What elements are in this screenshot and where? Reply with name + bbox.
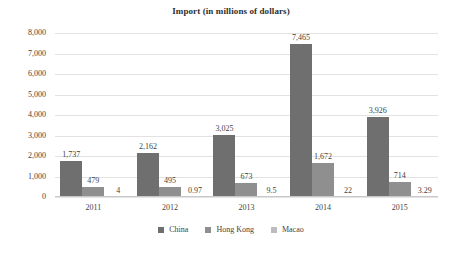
bar-value-label: 22	[331, 187, 365, 195]
bar-value-label: 4	[101, 187, 135, 195]
bar-value-label: 479	[75, 177, 111, 185]
bar-value-label: 2,162	[130, 143, 166, 151]
bar-value-label: 7,465	[283, 34, 319, 42]
y-tick-label: 5,000	[28, 91, 46, 99]
gridline	[55, 197, 438, 198]
bar-chart: Import (in millions of dollars) 01,0002,…	[0, 0, 462, 256]
bar-value-label: 673	[228, 173, 264, 181]
legend-item-hong-kong[interactable]: Hong Kong	[205, 226, 254, 234]
y-tick-label: 2,000	[28, 152, 46, 160]
bar-value-label: 1,672	[305, 153, 341, 161]
bar-group: 2,1624950.97	[132, 33, 209, 197]
x-tick-label: 2012	[132, 203, 209, 212]
legend-item-macao[interactable]: Macao	[271, 226, 304, 234]
legend-label: China	[169, 226, 188, 234]
y-tick-label: 0	[42, 193, 46, 201]
y-tick-label: 8,000	[28, 29, 46, 37]
x-tick-label: 2015	[361, 203, 438, 212]
legend-swatch-icon	[205, 227, 211, 233]
bar-group: 3,9267143.29	[361, 33, 438, 197]
chart-legend: ChinaHong KongMacao	[0, 226, 462, 234]
y-tick-label: 4,000	[28, 111, 46, 119]
x-tick-label: 2011	[55, 203, 132, 212]
bar-china-2012[interactable]	[137, 153, 159, 197]
bar-group: 7,4651,67222	[285, 33, 362, 197]
bar-value-label: 3,025	[207, 125, 243, 133]
x-axis-line	[55, 196, 438, 197]
bar-group: 1,7374794	[55, 33, 132, 197]
bar-china-2014[interactable]	[290, 44, 312, 197]
bar-value-label: 3.29	[408, 187, 442, 195]
legend-swatch-icon	[158, 227, 164, 233]
bar-china-2015[interactable]	[367, 117, 389, 197]
bar-value-label: 714	[382, 172, 418, 180]
bar-value-label: 0.97	[178, 187, 212, 195]
x-axis: 20112012201320142015	[55, 203, 438, 217]
bar-value-label: 495	[152, 177, 188, 185]
y-tick-label: 7,000	[28, 50, 46, 58]
bar-value-label: 1,737	[53, 151, 89, 159]
bar-value-label: 3,926	[360, 107, 396, 115]
bar-value-label: 9.5	[254, 187, 288, 195]
plot-area: 1,73747942,1624950.973,0256739.57,4651,6…	[55, 33, 438, 197]
bar-group: 3,0256739.5	[208, 33, 285, 197]
y-tick-label: 6,000	[28, 70, 46, 78]
y-tick-label: 3,000	[28, 132, 46, 140]
x-tick-label: 2014	[285, 203, 362, 212]
legend-swatch-icon	[271, 227, 277, 233]
bar-china-2013[interactable]	[213, 135, 235, 197]
x-tick-label: 2013	[208, 203, 285, 212]
legend-label: Macao	[282, 226, 304, 234]
chart-title: Import (in millions of dollars)	[0, 6, 462, 16]
legend-label: Hong Kong	[216, 226, 254, 234]
y-axis: 01,0002,0003,0004,0005,0006,0007,0008,00…	[0, 33, 50, 197]
legend-item-china[interactable]: China	[158, 226, 188, 234]
y-tick-label: 1,000	[28, 173, 46, 181]
